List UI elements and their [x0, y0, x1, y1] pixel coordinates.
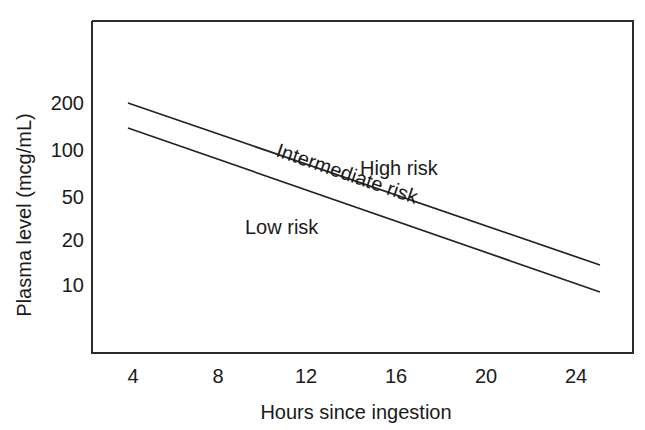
x-tick-label-4: 4	[127, 365, 138, 387]
x-tick-label-16: 16	[385, 365, 407, 387]
y-tick-label-50: 50	[62, 186, 84, 208]
y-tick-label-20: 20	[62, 229, 84, 251]
x-tick-label-20: 20	[475, 365, 497, 387]
x-tick-label-24: 24	[565, 365, 587, 387]
y-axis-title: Plasma level (mcg/mL)	[13, 113, 35, 316]
y-tick-label-200: 200	[51, 92, 84, 114]
y-tick-label-100: 100	[51, 139, 84, 161]
chart-canvas: 200 100 50 20 10 4 8 12 16 20 24 Plasma …	[0, 0, 645, 430]
lower-risk-boundary-line	[128, 128, 600, 292]
x-axis-title: Hours since ingestion	[260, 401, 451, 423]
nomogram-figure: 200 100 50 20 10 4 8 12 16 20 24 Plasma …	[0, 0, 645, 430]
low-risk-label: Low risk	[245, 216, 319, 238]
x-tick-label-8: 8	[212, 365, 223, 387]
y-tick-label-10: 10	[62, 274, 84, 296]
x-tick-label-12: 12	[295, 365, 317, 387]
